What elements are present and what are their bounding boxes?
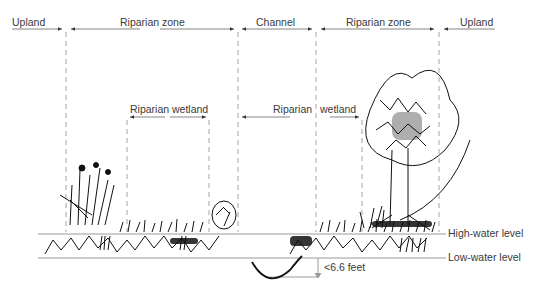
label-upland-left: Upland: [12, 17, 45, 28]
label-riparian-zone-right: Riparian zone: [346, 17, 411, 28]
label-riparian-wetland-left: Riparian wetland: [130, 104, 208, 115]
label-riparian-zone-left: Riparian zone: [120, 17, 185, 28]
label-riparian-wetland-right-2: wetland: [320, 104, 356, 115]
label-low-water-level: Low-water level: [448, 252, 521, 263]
depth-marker: [270, 258, 321, 278]
label-riparian-wetland-right-1: Riparian: [273, 104, 312, 115]
label-upland-right: Upland: [460, 17, 493, 28]
riparian-diagram: [0, 0, 540, 287]
zone-boundaries: [66, 32, 439, 232]
label-depth: <6.6 feet: [324, 262, 365, 273]
channel-bed: [252, 256, 302, 278]
water-level-lines: [38, 234, 446, 258]
label-high-water-level: High-water level: [448, 228, 523, 239]
label-channel: Channel: [256, 17, 295, 28]
